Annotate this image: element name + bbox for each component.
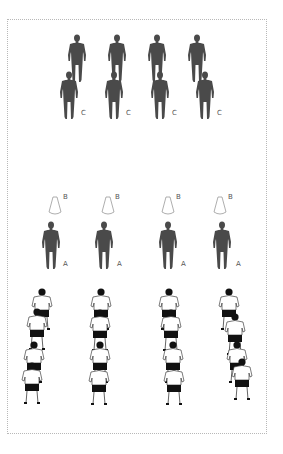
queued-players [0,0,283,454]
